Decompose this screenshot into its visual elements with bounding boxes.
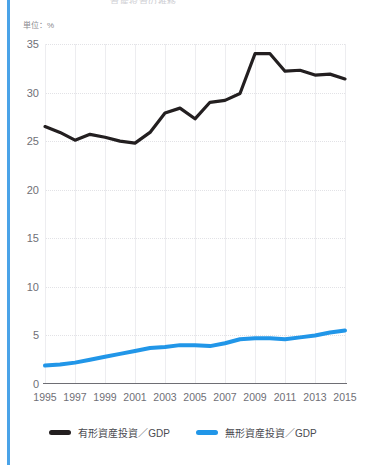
series-lines: [45, 44, 345, 384]
y-axis-tick-label: 5: [33, 329, 39, 341]
y-axis-tick-label: 15: [27, 232, 39, 244]
series-line-intangible: [45, 331, 345, 366]
plot-area: 05101520253035 1995199719992001200320052…: [45, 44, 345, 384]
y-axis-tick-label: 10: [27, 281, 39, 293]
gridline-vertical: [345, 44, 346, 384]
y-axis-tick-label: 35: [27, 38, 39, 50]
chart-legend: 有形資産投資／GDP無形資産投資／GDP: [0, 425, 366, 440]
legend-label: 有形資産投資／GDP: [78, 425, 170, 440]
x-axis-tick-label: 1995: [33, 391, 56, 403]
x-axis-tick-label: 1999: [93, 391, 116, 403]
left-accent-bar: [7, 0, 10, 465]
chart-page: 資産投資の推移 単位：% 05101520253035 199519971999…: [0, 0, 366, 465]
x-axis-tick-label: 2013: [303, 391, 326, 403]
legend-swatch-icon: [49, 430, 71, 435]
x-axis-tick-label: 1997: [63, 391, 86, 403]
x-axis-tick-label: 2003: [153, 391, 176, 403]
legend-label: 無形資産投資／GDP: [225, 425, 317, 440]
x-axis-tick-label: 2005: [183, 391, 206, 403]
y-axis-unit-label: 単位：%: [23, 19, 54, 30]
legend-item-intangible[interactable]: 無形資産投資／GDP: [196, 425, 317, 440]
y-axis-tick-label: 20: [27, 184, 39, 196]
x-axis-tick-label: 2015: [333, 391, 356, 403]
y-axis-tick-label: 30: [27, 87, 39, 99]
x-axis-tick-label: 2001: [123, 391, 146, 403]
x-axis-tick-label: 2007: [213, 391, 236, 403]
y-axis-tick-label: 0: [33, 378, 39, 390]
legend-item-tangible[interactable]: 有形資産投資／GDP: [49, 425, 170, 440]
page-title: 資産投資の推移: [110, 0, 330, 4]
y-axis-tick-label: 25: [27, 135, 39, 147]
series-line-tangible: [45, 54, 345, 143]
x-axis-tick-label: 2009: [243, 391, 266, 403]
legend-swatch-icon: [196, 430, 218, 435]
x-axis-tick-label: 2011: [274, 391, 297, 403]
